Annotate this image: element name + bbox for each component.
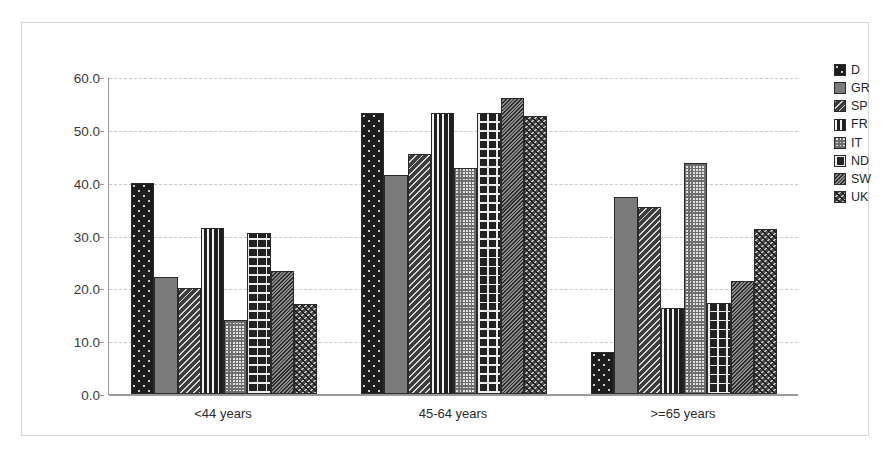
chart-legend: DGRSPFRITNDSWUK bbox=[834, 61, 892, 207]
bar-fr bbox=[201, 228, 224, 394]
x-axis: <44 years45-64 years>=65 years bbox=[108, 406, 798, 426]
y-tick-mark bbox=[100, 78, 104, 79]
y-tick-label: 40.0 bbox=[42, 176, 100, 191]
bars-layer bbox=[109, 78, 798, 394]
x-tick-label: 45-64 years bbox=[419, 406, 488, 421]
legend-item-sp[interactable]: SP bbox=[834, 97, 892, 115]
legend-label: UK bbox=[851, 191, 868, 204]
legend-swatch-icon bbox=[834, 173, 846, 185]
legend-swatch-icon bbox=[834, 155, 846, 167]
legend-item-gr[interactable]: GR bbox=[834, 79, 892, 97]
legend-label: IT bbox=[851, 137, 862, 150]
bar-d bbox=[591, 352, 614, 394]
legend-label: GR bbox=[851, 82, 870, 95]
legend-swatch-icon bbox=[834, 100, 846, 112]
bar-uk bbox=[294, 304, 317, 394]
legend-item-it[interactable]: IT bbox=[834, 134, 892, 152]
bar-sw bbox=[271, 271, 294, 394]
y-tick-label: 20.0 bbox=[42, 282, 100, 297]
bar-group bbox=[569, 78, 799, 394]
y-tick-label: 0.0 bbox=[42, 388, 100, 403]
y-tick-label: 60.0 bbox=[42, 71, 100, 86]
bar-nd bbox=[477, 113, 500, 394]
bar-sw bbox=[731, 281, 754, 394]
y-axis: 0.010.020.030.040.050.060.0 bbox=[36, 78, 100, 395]
bar-it bbox=[224, 320, 247, 394]
bar-it bbox=[684, 163, 707, 394]
y-tick-mark bbox=[100, 289, 104, 290]
y-tick-mark bbox=[100, 342, 104, 343]
y-tick-mark bbox=[100, 395, 104, 396]
legend-label: D bbox=[851, 64, 860, 77]
bar-sp bbox=[178, 288, 201, 394]
legend-swatch-icon bbox=[834, 64, 846, 76]
legend-item-nd[interactable]: ND bbox=[834, 152, 892, 170]
bar-group bbox=[109, 78, 339, 394]
x-tick-label: <44 years bbox=[194, 406, 251, 421]
gridline bbox=[109, 395, 798, 396]
bar-gr bbox=[384, 175, 407, 394]
y-tick-label: 30.0 bbox=[42, 229, 100, 244]
legend-item-fr[interactable]: FR bbox=[834, 116, 892, 134]
bar-fr bbox=[431, 113, 454, 394]
bar-fr bbox=[661, 308, 684, 394]
y-tick-mark bbox=[100, 184, 104, 185]
bar-nd bbox=[707, 303, 730, 394]
bar-sw bbox=[501, 98, 524, 394]
legend-swatch-icon bbox=[834, 119, 846, 131]
legend-swatch-icon bbox=[834, 137, 846, 149]
y-tick-label: 10.0 bbox=[42, 335, 100, 350]
legend-label: FR bbox=[851, 118, 868, 131]
y-tick-mark bbox=[100, 131, 104, 132]
legend-swatch-icon bbox=[834, 191, 846, 203]
bar-group bbox=[339, 78, 569, 394]
bar-uk bbox=[524, 116, 547, 394]
legend-label: SP bbox=[851, 100, 868, 113]
legend-item-d[interactable]: D bbox=[834, 61, 892, 79]
legend-item-uk[interactable]: UK bbox=[834, 188, 892, 206]
bar-nd bbox=[247, 233, 270, 394]
bar-uk bbox=[754, 229, 777, 394]
bar-d bbox=[361, 113, 384, 394]
legend-item-sw[interactable]: SW bbox=[834, 170, 892, 188]
legend-swatch-icon bbox=[834, 82, 846, 94]
bar-gr bbox=[154, 277, 177, 394]
x-tick-label: >=65 years bbox=[650, 406, 715, 421]
legend-label: SW bbox=[851, 173, 871, 186]
bar-it bbox=[454, 168, 477, 394]
chart-frame: 0.010.020.030.040.050.060.0 <44 years45-… bbox=[21, 22, 869, 436]
bar-d bbox=[131, 183, 154, 394]
bar-gr bbox=[614, 197, 637, 394]
plot-area bbox=[108, 78, 798, 395]
legend-label: ND bbox=[851, 155, 869, 168]
y-tick-label: 50.0 bbox=[42, 123, 100, 138]
y-tick-mark bbox=[100, 237, 104, 238]
bar-sp bbox=[638, 207, 661, 394]
bar-sp bbox=[408, 154, 431, 394]
